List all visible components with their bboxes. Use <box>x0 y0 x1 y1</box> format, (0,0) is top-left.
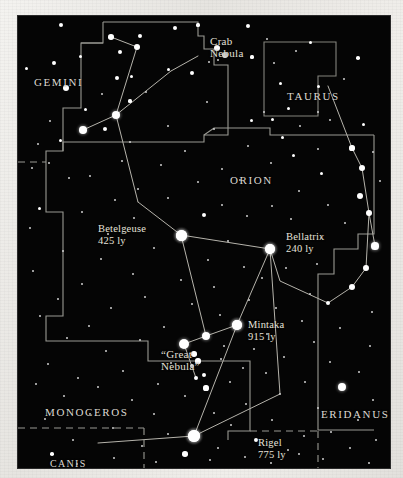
star-marker <box>50 452 54 456</box>
star-marker <box>38 207 41 210</box>
named-star-betelgeuse <box>176 230 187 241</box>
star-marker <box>25 67 28 70</box>
star-marker <box>167 68 170 71</box>
star-marker <box>317 85 320 88</box>
star-marker <box>359 165 365 171</box>
constellation-boundaries <box>46 22 374 440</box>
star-marker <box>103 127 107 131</box>
star-marker <box>128 99 131 102</box>
star-marker <box>271 118 274 121</box>
star-marker <box>326 301 330 305</box>
star-marker <box>108 34 114 40</box>
nebula-marker <box>194 376 198 380</box>
star-chart-figure: GEMINITAURUSORIONMONOCEROSERIDANUSLEPUSC… <box>0 0 403 478</box>
star-marker <box>320 172 323 175</box>
star-marker <box>250 119 253 122</box>
star-marker <box>52 61 56 65</box>
nebula-marker <box>190 364 194 368</box>
star-marker <box>309 41 312 44</box>
star-marker <box>338 383 346 391</box>
star-marker <box>281 136 284 139</box>
constellation-lines-layer <box>18 16 390 468</box>
star-marker <box>79 126 87 134</box>
star-marker <box>115 76 119 80</box>
star-marker <box>349 145 354 150</box>
star-marker <box>287 107 290 110</box>
star-marker <box>195 358 200 363</box>
nebula-marker <box>191 351 197 357</box>
named-star-mintaka <box>232 320 242 330</box>
star-marker <box>59 139 62 142</box>
star-marker <box>371 242 378 249</box>
star-marker <box>173 26 177 30</box>
star-marker <box>356 56 360 60</box>
star-marker <box>179 339 189 349</box>
star-marker <box>362 123 365 126</box>
star-marker <box>366 210 372 216</box>
star-marker <box>222 52 228 58</box>
star-marker <box>182 451 188 457</box>
star-marker <box>202 213 206 217</box>
star-marker <box>79 55 82 58</box>
star-marker <box>196 23 199 26</box>
star-marker <box>279 82 282 85</box>
star-marker <box>292 154 295 157</box>
star-marker <box>250 55 253 58</box>
star-marker <box>130 75 133 78</box>
star-marker <box>363 265 369 271</box>
sky-field: GEMINITAURUSORIONMONOCEROSERIDANUSLEPUSC… <box>18 16 390 468</box>
star-marker <box>84 108 87 111</box>
nebula-marker <box>214 45 220 51</box>
star-marker <box>203 385 208 390</box>
